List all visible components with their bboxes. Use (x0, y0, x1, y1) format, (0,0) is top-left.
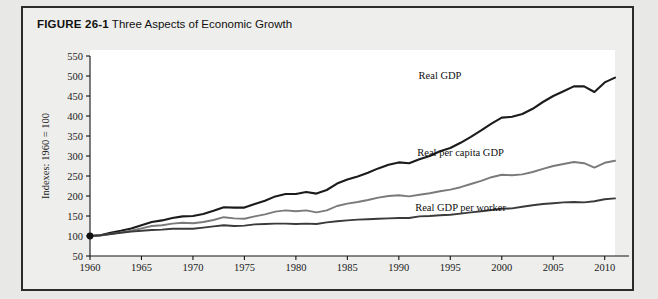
x-tick-label: 1990 (388, 262, 409, 273)
y-tick-label: 500 (67, 71, 83, 82)
x-tick-label: 2010 (594, 262, 615, 273)
y-tick-label: 150 (67, 211, 83, 222)
chart-plot-area: 50100150200250300350400450500550 1960196… (23, 30, 632, 289)
series-label-real-gdp: Real GDP (419, 70, 462, 81)
x-tick-label: 1970 (182, 262, 203, 273)
x-tick-label: 1985 (337, 262, 358, 273)
series-label-real-per-capita-gdp: Real per capita GDP (417, 147, 504, 158)
y-tick-label: 100 (67, 231, 83, 242)
y-tick-label: 200 (67, 191, 83, 202)
figure-caption: Three Aspects of Economic Growth (112, 18, 292, 30)
x-tick-label: 1995 (440, 262, 461, 273)
y-tick-label: 450 (67, 91, 83, 102)
x-axis-ticks: 1960196519701975198019851990199520002005… (80, 256, 616, 273)
x-tick-label: 1975 (234, 262, 255, 273)
origin-marker (87, 233, 94, 240)
y-tick-label: 300 (67, 151, 83, 162)
y-tick-label: 350 (67, 131, 83, 142)
figure-card: FIGURE 26-1 Three Aspects of Economic Gr… (21, 6, 634, 291)
x-tick-label: 1980 (285, 262, 306, 273)
series-label-real-gdp-per-worker: Real GDP per worker (415, 202, 506, 213)
y-tick-label: 250 (67, 171, 83, 182)
x-axis-title: Year (343, 287, 363, 289)
economic-growth-line-chart: 50100150200250300350400450500550 1960196… (23, 30, 632, 289)
y-axis-ticks: 50100150200250300350400450500550 (67, 51, 90, 262)
y-tick-label: 400 (67, 111, 83, 122)
x-tick-label: 2005 (543, 262, 564, 273)
figure-title: FIGURE 26-1 Three Aspects of Economic Gr… (37, 18, 292, 30)
y-axis-title: Indexes: 1960 = 100 (40, 113, 51, 199)
x-tick-label: 1965 (131, 262, 152, 273)
y-tick-label: 50 (73, 251, 84, 262)
figure-number: FIGURE 26-1 (37, 18, 109, 30)
x-tick-label: 1960 (80, 262, 101, 273)
y-tick-label: 550 (67, 51, 83, 62)
x-tick-label: 2000 (491, 262, 512, 273)
